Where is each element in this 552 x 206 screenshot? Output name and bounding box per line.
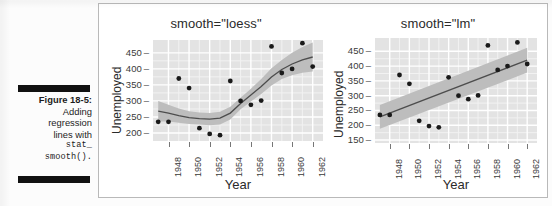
data-point xyxy=(397,73,402,78)
x-axis-label-lm: Year xyxy=(375,177,537,192)
data-point xyxy=(156,119,161,124)
y-tick-label: 250– xyxy=(348,104,371,115)
y-tick-label: 300– xyxy=(126,95,149,106)
x-tickmark xyxy=(429,144,430,149)
x-tickmark xyxy=(230,142,231,147)
data-point xyxy=(187,86,192,91)
data-point xyxy=(176,76,181,81)
figure-caption: Figure 18-5: Adding regression lines wit… xyxy=(0,94,92,164)
x-tickmark xyxy=(189,142,190,147)
y-tick-label: 200– xyxy=(126,127,149,138)
y-tick-label: 250– xyxy=(126,111,149,122)
figure-page: Figure 18-5: Adding regression lines wit… xyxy=(0,0,552,206)
x-tickmark xyxy=(468,144,469,149)
caption-rule-top xyxy=(18,85,90,92)
data-point xyxy=(505,64,510,69)
figure-number: Figure 18-5: xyxy=(0,94,92,106)
x-tickmark xyxy=(272,142,273,147)
caption-line-1: Adding xyxy=(0,106,92,118)
data-point xyxy=(207,132,212,137)
data-point xyxy=(476,93,481,98)
figure-frame: smooth="loess" Unemployed 200–250–300–35… xyxy=(98,3,548,198)
y-tick-label: 350– xyxy=(126,79,149,90)
x-tick-label: 1956 xyxy=(255,157,265,177)
confidence-band xyxy=(158,43,313,126)
y-tick-label: 300– xyxy=(348,90,371,101)
chart-loess: smooth="loess" Unemployed 200–250–300–35… xyxy=(103,4,329,199)
y-tick-label: 400– xyxy=(126,63,149,74)
caption-line-2: regression xyxy=(0,117,92,129)
x-tick-label: 1954 xyxy=(234,157,244,177)
x-tickmark xyxy=(409,144,410,149)
x-tickmark xyxy=(508,144,509,149)
data-point xyxy=(290,67,295,72)
x-tickmark xyxy=(292,142,293,147)
x-tick-label: 1952 xyxy=(214,157,224,177)
x-axis-tickmarks-lm xyxy=(375,144,537,150)
data-point xyxy=(387,113,392,118)
plot-panel-loess xyxy=(153,40,323,141)
x-tick-label: 1952 xyxy=(433,159,443,179)
x-tick-label: 1948 xyxy=(394,159,404,179)
x-tickmark xyxy=(527,144,528,149)
y-axis-label-loess: Unemployed xyxy=(110,67,124,134)
y-tick-label: 450– xyxy=(348,45,371,56)
data-point xyxy=(407,81,412,86)
chart-title-lm: smooth="lm" xyxy=(331,16,545,31)
data-point xyxy=(378,113,383,118)
data-point xyxy=(417,118,422,123)
y-tick-label: 450– xyxy=(126,47,149,58)
x-axis-tickmarks-loess xyxy=(153,142,323,148)
data-point xyxy=(466,97,471,102)
x-tickmark xyxy=(210,142,211,147)
data-point xyxy=(166,119,171,124)
data-point xyxy=(436,125,441,130)
x-tick-label: 1950 xyxy=(193,157,203,177)
data-point xyxy=(446,75,451,80)
x-tickmark xyxy=(449,144,450,149)
data-point xyxy=(310,64,315,69)
caption-code-line-1: stat_ xyxy=(0,140,92,152)
data-point xyxy=(249,102,254,107)
x-tick-label: 1954 xyxy=(453,159,463,179)
x-tick-label: 1960 xyxy=(296,157,306,177)
data-point xyxy=(486,43,491,48)
x-tick-label: 1948 xyxy=(173,157,183,177)
y-tick-label: 400– xyxy=(348,60,371,71)
data-point xyxy=(300,41,305,46)
data-point xyxy=(279,71,284,76)
plot-area xyxy=(153,40,323,141)
plot-panel-lm xyxy=(375,38,537,143)
data-point xyxy=(525,62,530,67)
x-tick-label: 1962 xyxy=(531,159,541,179)
y-tick-label: 200– xyxy=(348,119,371,130)
x-tick-label: 1958 xyxy=(492,159,502,179)
x-tickmark xyxy=(390,144,391,149)
y-tick-label: 350– xyxy=(348,75,371,86)
data-point xyxy=(427,124,432,129)
data-point xyxy=(238,99,243,104)
plot-area xyxy=(375,38,537,143)
x-tickmark xyxy=(169,142,170,147)
x-tick-label: 1962 xyxy=(317,157,327,177)
data-point xyxy=(456,93,461,98)
data-point xyxy=(515,40,520,45)
caption-code-line-2: smooth(). xyxy=(0,152,92,164)
x-tick-label: 1956 xyxy=(472,159,482,179)
x-tick-label: 1950 xyxy=(413,159,423,179)
x-tickmark xyxy=(488,144,489,149)
caption-line-3: lines with xyxy=(0,129,92,141)
x-tickmark xyxy=(313,142,314,147)
y-axis-label-lm: Unemployed xyxy=(332,71,346,138)
data-point xyxy=(197,126,202,131)
figure-caption-column: Figure 18-5: Adding regression lines wit… xyxy=(0,0,96,206)
x-tick-label: 1958 xyxy=(276,157,286,177)
caption-rule-bottom xyxy=(18,176,90,183)
x-tick-label: 1960 xyxy=(512,159,522,179)
data-point xyxy=(269,44,274,49)
chart-title-loess: smooth="loess" xyxy=(103,16,329,31)
data-point xyxy=(495,68,500,73)
data-point xyxy=(228,79,233,84)
data-point xyxy=(218,133,223,138)
x-axis-label-loess: Year xyxy=(153,177,323,192)
